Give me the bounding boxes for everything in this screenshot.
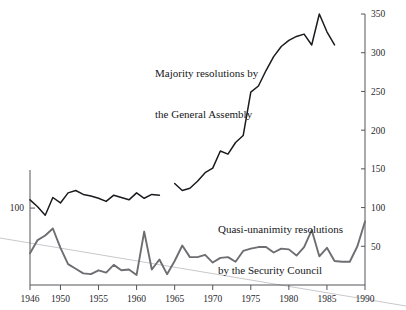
right-axis-tick-label: 100 xyxy=(371,203,386,213)
right-axis-tick-label: 250 xyxy=(371,87,386,97)
right-axis-ticks xyxy=(361,14,365,246)
general-assembly-label: Majority resolutions by the General Asse… xyxy=(155,40,258,148)
chart-container: 50100150200250300350 100 194619501955196… xyxy=(0,0,406,310)
general-assembly-label-line2: the General Assembly xyxy=(155,108,258,122)
left-axis-tick-labels: 100 xyxy=(10,203,25,213)
right-axis-tick-labels: 50100150200250300350 xyxy=(371,9,386,251)
right-axis-tick-label: 50 xyxy=(371,242,381,252)
security-council-label-line2: by the Security Council xyxy=(218,264,343,278)
bottom-axis-tick-label: 1955 xyxy=(89,294,108,304)
left-axis-tick-label: 100 xyxy=(10,203,25,213)
bottom-axis-tick-label: 1990 xyxy=(356,294,375,304)
security-council-label: Quasi-unanimity resolutions by the Secur… xyxy=(218,196,343,304)
bottom-axis-tick-label: 1965 xyxy=(165,294,184,304)
bottom-axis-tick-label: 1950 xyxy=(51,294,70,304)
security-council-label-line1: Quasi-unanimity resolutions xyxy=(218,223,343,237)
right-axis-tick-label: 200 xyxy=(371,126,386,136)
right-axis-tick-label: 300 xyxy=(371,48,386,58)
general-assembly-label-line1: Majority resolutions by xyxy=(155,67,258,81)
right-axis-tick-label: 150 xyxy=(371,164,386,174)
right-axis-tick-label: 350 xyxy=(371,9,386,19)
bottom-axis-tick-label: 1960 xyxy=(127,294,146,304)
bottom-axis-tick-label: 1946 xyxy=(21,294,40,304)
